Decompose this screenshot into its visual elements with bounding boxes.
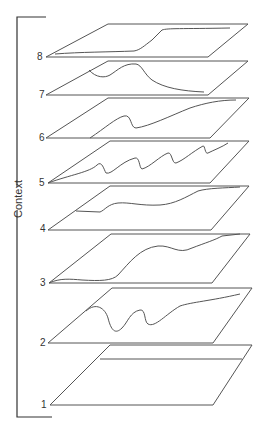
layer-1: 1 <box>41 345 252 410</box>
layer-3-plane <box>49 234 250 283</box>
layer-5-curve <box>48 143 228 183</box>
layer-1-label: 1 <box>41 399 47 410</box>
layer-1-plane <box>50 345 252 405</box>
layer-7-curve <box>89 64 204 92</box>
layer-6-curve <box>90 100 236 138</box>
layer-8: 8 <box>37 24 248 62</box>
layer-3: 3 <box>40 234 250 288</box>
layer-8-plane <box>46 24 248 57</box>
layer-5: 5 <box>39 141 249 188</box>
layer-6-plane <box>46 98 249 138</box>
layer-4-curve <box>76 187 240 212</box>
layer-7: 7 <box>39 61 248 100</box>
layer-8-curve <box>55 28 230 54</box>
layer-6: 6 <box>39 98 249 143</box>
layer-7-plane <box>46 61 248 95</box>
layer-4: 4 <box>40 186 249 234</box>
layer-3-label: 3 <box>40 277 46 288</box>
context-layers-diagram: Context 1 2 3 4 5 6 7 <box>0 0 266 431</box>
layer-5-label: 5 <box>39 177 45 188</box>
layer-7-label: 7 <box>39 89 45 100</box>
layer-5-plane <box>48 141 249 183</box>
layer-2-label: 2 <box>40 337 46 348</box>
layer-2-curve <box>86 294 240 331</box>
layer-8-label: 8 <box>37 51 43 62</box>
layer-3-curve <box>49 234 240 283</box>
layer-2-plane <box>48 288 252 343</box>
context-axis-label: Context <box>12 180 24 218</box>
layer-4-label: 4 <box>40 223 46 234</box>
layer-6-label: 6 <box>39 132 45 143</box>
layer-4-plane <box>48 186 249 230</box>
layer-2: 2 <box>40 288 252 348</box>
